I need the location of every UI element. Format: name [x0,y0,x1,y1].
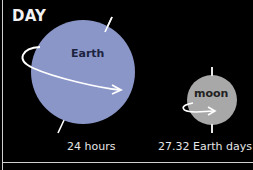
moon-label: moon [194,87,228,100]
earth-label: Earth [71,47,104,60]
moon-icon [187,75,237,125]
earth-rotation-period: 24 hours [67,140,115,153]
earth-icon [31,20,135,124]
moon-rotation-period: 27.32 Earth days [158,140,252,153]
diagram-frame: DAY Earth moon 24 hours 27.32 Earth days [0,0,253,170]
